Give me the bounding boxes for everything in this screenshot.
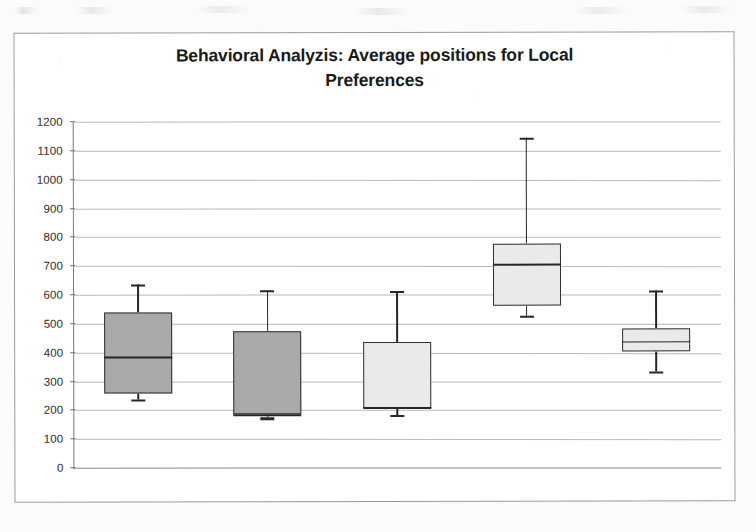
y-axis-tick-label: 800 — [17, 231, 63, 243]
y-axis-tick-label: 900 — [17, 202, 63, 214]
chart-title-line-2: Preferences — [85, 67, 665, 93]
whisker-lower — [655, 351, 657, 371]
y-axis-tick-label: 100 — [17, 433, 63, 445]
y-axis-tick-label: 200 — [17, 404, 63, 416]
boxplot-smoreg — [73, 120, 722, 467]
chart-frame: Behavioral Analyzis: Average positions f… — [14, 31, 736, 503]
whisker-cap-lower — [649, 371, 663, 373]
whisker-upper — [655, 291, 657, 329]
y-axis-tick-label: 700 — [17, 260, 63, 272]
y-axis-tick-label: 400 — [17, 346, 63, 358]
y-axis-tick-label: 1100 — [17, 144, 63, 156]
y-axis-tick-label: 300 — [17, 375, 63, 387]
plot-area: 1200110010009008007006005004003002001000… — [73, 120, 722, 467]
whisker-cap-upper — [649, 291, 663, 293]
scan-artifact-top-text — [0, 0, 756, 26]
y-axis-tick-label: 1000 — [17, 173, 63, 185]
y-axis-tick-label: 500 — [17, 317, 63, 329]
median-line — [622, 341, 690, 343]
y-axis-tick-label: 0 — [17, 462, 63, 474]
chart-title: Behavioral Analyzis: Average positions f… — [85, 42, 665, 93]
y-axis-tick-label: 1200 — [17, 116, 63, 128]
gridline-0 — [73, 467, 721, 468]
chart-title-line-1: Behavioral Analyzis: Average positions f… — [85, 42, 665, 68]
y-axis-tick-label: 600 — [17, 289, 63, 301]
box-iqr — [622, 329, 690, 352]
